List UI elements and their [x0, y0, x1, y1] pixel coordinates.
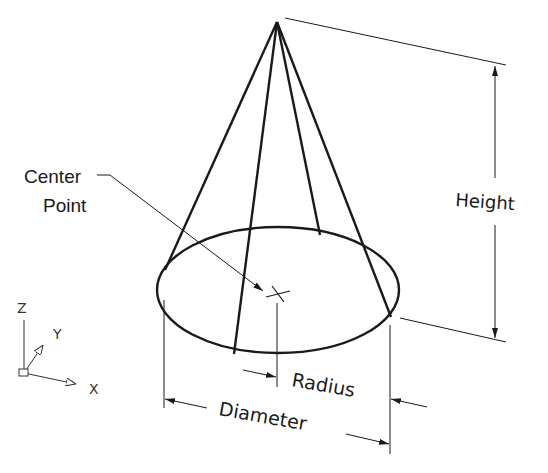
- y-axis-label: Y: [52, 326, 62, 342]
- radius-label: Radius: [290, 368, 357, 401]
- x-axis-label: X: [89, 381, 99, 397]
- ucs-axis-icon: Z Y X: [17, 300, 99, 397]
- center-point-marker: [266, 286, 290, 302]
- cone-base-ellipse: [157, 227, 399, 353]
- radius-arrow-left: [243, 370, 276, 377]
- cone-diagram: Center Point Height Radius Diameter Z Y …: [0, 0, 548, 473]
- center-point-label-line2: Point: [43, 195, 87, 216]
- height-extension-lines: [285, 18, 506, 342]
- diameter-arrow-left: [165, 399, 207, 408]
- height-label: Height: [455, 189, 516, 214]
- x-axis-line: [24, 373, 76, 384]
- base-extension-lines: [164, 300, 390, 454]
- z-axis-label: Z: [17, 300, 27, 316]
- radius-arrow-right: [391, 399, 427, 407]
- cone-edge-right: [277, 22, 391, 317]
- diameter-label: Diameter: [217, 397, 308, 434]
- center-point-leader: [97, 175, 263, 291]
- diameter-arrow-right: [346, 434, 389, 444]
- cone-edge-inner-right: [277, 22, 320, 235]
- center-point-label-line1: Center: [24, 166, 82, 187]
- ucs-origin-box: [19, 369, 28, 376]
- cone-body: [165, 22, 391, 354]
